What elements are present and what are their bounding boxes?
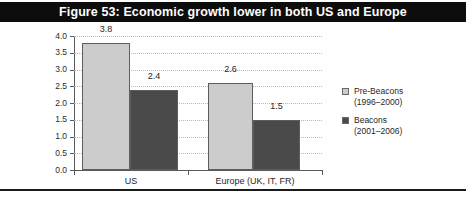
category-separator-right — [322, 171, 323, 175]
x-axis-line — [74, 170, 323, 171]
plot-area: 3.8 2.4 2.6 1.5 — [74, 36, 322, 170]
bar-us-pre-beacons — [82, 43, 130, 170]
bottom-divider — [0, 189, 466, 191]
y-tick-label: 1.5 — [45, 115, 67, 124]
legend-period-beacons: (2001–2006) — [354, 126, 402, 137]
figure-title-bar: Figure 53: Economic growth lower in both… — [0, 2, 466, 22]
y-axis-label: % Real GDP — [0, 0, 1, 74]
y-tick-label: 3.5 — [45, 48, 67, 57]
bar-europe-pre-beacons — [208, 83, 253, 170]
bar-us-beacons — [130, 90, 178, 170]
bar-value-europe-pre-beacons: 2.6 — [208, 64, 253, 74]
chart-legend: Pre-Beacons (1996–2000) Beacons (2001–20… — [342, 86, 454, 144]
category-separator-left — [74, 171, 75, 175]
y-tick-label: 4.0 — [45, 32, 67, 41]
y-tick-label: 0.5 — [45, 149, 67, 158]
legend-label-beacons: Beacons — [354, 115, 402, 126]
category-label-us: US — [74, 176, 188, 186]
y-tick-label: 3.0 — [45, 65, 67, 74]
bar-europe-beacons — [253, 120, 300, 170]
legend-swatch-icon-beacons — [342, 117, 349, 124]
y-tick-label: 1.0 — [45, 132, 67, 141]
legend-swatch-icon-pre-beacons — [342, 88, 349, 95]
y-tick-label: 2.5 — [45, 82, 67, 91]
legend-label-pre-beacons: Pre-Beacons — [354, 86, 403, 97]
figure-title: Figure 53: Economic growth lower in both… — [59, 5, 407, 19]
legend-period-pre-beacons: (1996–2000) — [354, 97, 403, 108]
legend-item-beacons: Beacons (2001–2006) — [342, 115, 454, 137]
category-separator-mid — [188, 171, 189, 175]
legend-item-pre-beacons: Pre-Beacons (1996–2000) — [342, 86, 454, 108]
bar-value-us-pre-beacons: 3.8 — [82, 24, 130, 34]
bar-value-us-beacons: 2.4 — [130, 71, 178, 81]
bar-value-europe-beacons: 1.5 — [253, 101, 300, 111]
y-tick-label: 0.0 — [45, 166, 67, 175]
figure-container: Figure 53: Economic growth lower in both… — [0, 0, 466, 197]
y-tick-label: 2.0 — [45, 99, 67, 108]
category-label-europe: Europe (UK, IT, FR) — [188, 176, 322, 186]
